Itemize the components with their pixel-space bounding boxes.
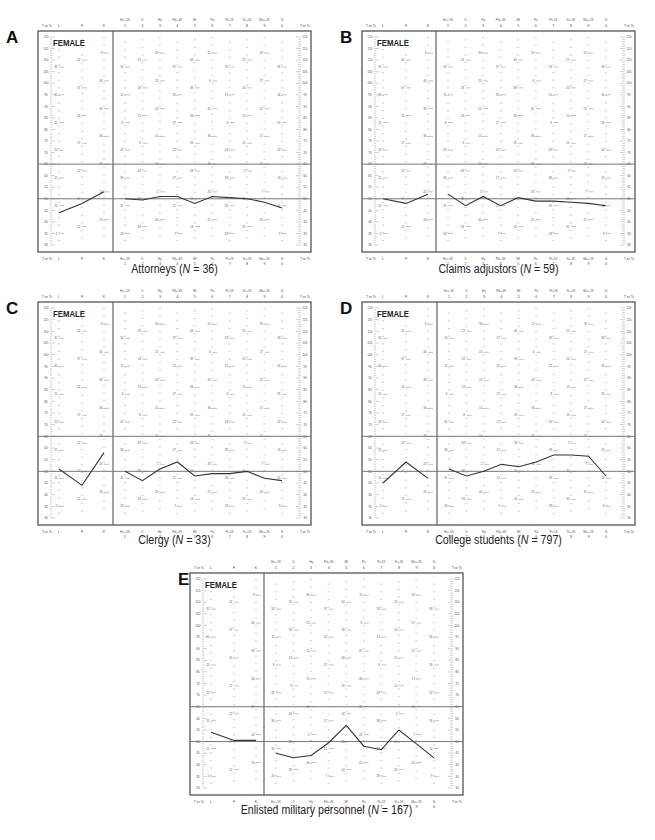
scale-label: L: [58, 295, 60, 299]
y-tick-label: 85: [196, 658, 200, 662]
scale-label: K: [255, 566, 258, 570]
y-tick-label: 90: [44, 376, 48, 380]
y-tick-label: 120: [302, 306, 308, 310]
raw-score-label: 15: [378, 176, 382, 180]
y-tick-label: 120: [454, 577, 460, 581]
raw-score-label: 43: [461, 169, 465, 173]
raw-score-label: 33: [548, 204, 552, 208]
chart-frame: [38, 302, 311, 525]
y-tick-label: 45: [368, 209, 372, 213]
scale-number: 0: [433, 566, 435, 570]
axis-footer: T or Tc: [42, 257, 53, 261]
y-tick-label: 120: [302, 35, 308, 39]
scale-label: Pa: [534, 18, 538, 22]
raw-score-label: 32: [401, 114, 405, 118]
y-tick-label: 80: [303, 400, 307, 404]
raw-score-label: 21: [207, 218, 211, 222]
scale-label: D: [141, 257, 144, 261]
scale-label: F: [405, 295, 408, 299]
y-tick-label: 60: [455, 717, 459, 721]
y-tick-label: 110: [195, 600, 200, 604]
scale-label: Sc+1K: [566, 257, 575, 261]
y-tick-label: 50: [627, 197, 631, 201]
scale-label: Si: [281, 257, 284, 261]
y-tick-label: 100: [302, 353, 308, 357]
raw-score-label: 19: [99, 490, 103, 494]
raw-score-label: 18: [289, 628, 293, 632]
raw-score-label: 5: [56, 232, 58, 236]
n-label: N: [523, 262, 531, 276]
raw-score-label: 12: [324, 747, 328, 751]
scale-number: 9: [415, 566, 417, 570]
y-tick-label: 115: [454, 589, 459, 593]
raw-score-label: 12: [412, 705, 416, 709]
scale-label: Sc+1K: [243, 257, 252, 261]
y-tick-label: 30: [44, 243, 48, 247]
raw-score-label: 25: [242, 58, 246, 62]
raw-score-label: 16: [443, 65, 447, 69]
y-tick-label: 70: [44, 423, 48, 427]
raw-score-label: 39: [513, 86, 517, 90]
y-tick-label: 85: [368, 116, 372, 120]
raw-score-label: 39: [251, 649, 255, 653]
y-tick-label: 120: [43, 35, 49, 39]
scale-label: Pa: [534, 257, 538, 261]
scale-label: Hs+.5K: [120, 257, 130, 261]
raw-score-label: 24: [99, 190, 103, 194]
raw-score-label: 37: [496, 65, 500, 69]
raw-score-label: 24: [514, 441, 518, 445]
raw-score-label: 9: [253, 593, 255, 597]
raw-score-label: 10: [54, 476, 58, 480]
raw-score-label: 27: [324, 663, 328, 667]
scale-number: 4: [176, 295, 178, 299]
scale-label: Mf: [517, 289, 520, 293]
raw-score-label: 41: [444, 420, 448, 424]
raw-score-label: 24: [190, 441, 194, 445]
n-value: = 59: [531, 262, 555, 276]
raw-score-label: 32: [77, 385, 81, 389]
y-tick-label: 40: [44, 220, 48, 224]
y-tick-label: 75: [368, 411, 372, 415]
raw-score-label: 33: [461, 225, 465, 229]
raw-score-label: 30: [54, 364, 58, 368]
raw-score-label: 28: [376, 774, 380, 778]
raw-score-label: 26: [120, 504, 124, 508]
raw-score-label: 29: [277, 121, 281, 125]
axis-header: T or Tc: [194, 566, 205, 570]
y-tick-label: 120: [195, 577, 201, 581]
scale-label: Ma+.2K: [259, 18, 269, 22]
raw-score-label: 32: [324, 635, 328, 639]
raw-score-label: 22: [260, 107, 264, 111]
raw-score-label: 10: [242, 413, 246, 417]
raw-score-label: 27: [172, 121, 176, 125]
y-tick-label: 105: [367, 341, 373, 345]
raw-score-label: 36: [443, 176, 447, 180]
raw-score-label: 36: [120, 448, 124, 452]
raw-score-label: 17: [412, 677, 416, 681]
scale-label: Pa: [210, 289, 214, 293]
raw-score-label: 28: [549, 504, 553, 508]
chart-frame: [362, 302, 635, 525]
raw-score-label: 44: [251, 621, 255, 625]
raw-score-label: 32: [229, 656, 233, 660]
raw-score-label: 19: [429, 719, 433, 723]
raw-score-label: 37: [496, 336, 500, 340]
scale-label: Si: [433, 560, 436, 564]
raw-score-label: 5: [568, 169, 570, 173]
raw-score-label: 11: [208, 51, 211, 55]
scale-number: 8: [246, 295, 248, 299]
y-tick-label: 35: [368, 232, 372, 236]
raw-score-label: 12: [77, 225, 81, 229]
raw-score-label: 43: [462, 441, 466, 445]
raw-score-label: 8: [462, 141, 464, 145]
scale-label: F: [233, 566, 236, 570]
scale-label: D: [141, 18, 144, 22]
raw-score-label: 42: [77, 58, 81, 62]
scale-number: 8: [570, 24, 572, 28]
raw-score-label: 25: [566, 329, 570, 333]
y-tick-label: 100: [43, 81, 49, 85]
scale-number: 6: [363, 566, 365, 570]
chart-panel: T or TcLFKHs+.5K1D2Hy3Pd+.4K4Mf5Pa6Pt+1K…: [38, 289, 311, 539]
y-tick-label: 90: [455, 647, 459, 651]
y-tick-label: 40: [455, 763, 459, 767]
